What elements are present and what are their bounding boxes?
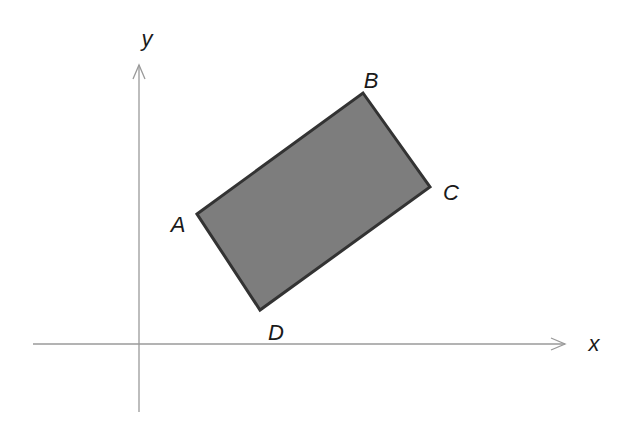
- coordinate-diagram: x y A B C D: [0, 0, 632, 424]
- rectangle-abcd: [197, 93, 430, 310]
- x-axis: x: [33, 331, 601, 356]
- y-axis: y: [133, 26, 155, 412]
- vertex-label-d: D: [268, 320, 284, 345]
- x-axis-label: x: [588, 331, 601, 356]
- y-axis-label: y: [140, 26, 155, 51]
- vertex-label-c: C: [443, 180, 459, 205]
- vertex-label-a: A: [169, 212, 186, 237]
- vertex-label-b: B: [364, 68, 379, 93]
